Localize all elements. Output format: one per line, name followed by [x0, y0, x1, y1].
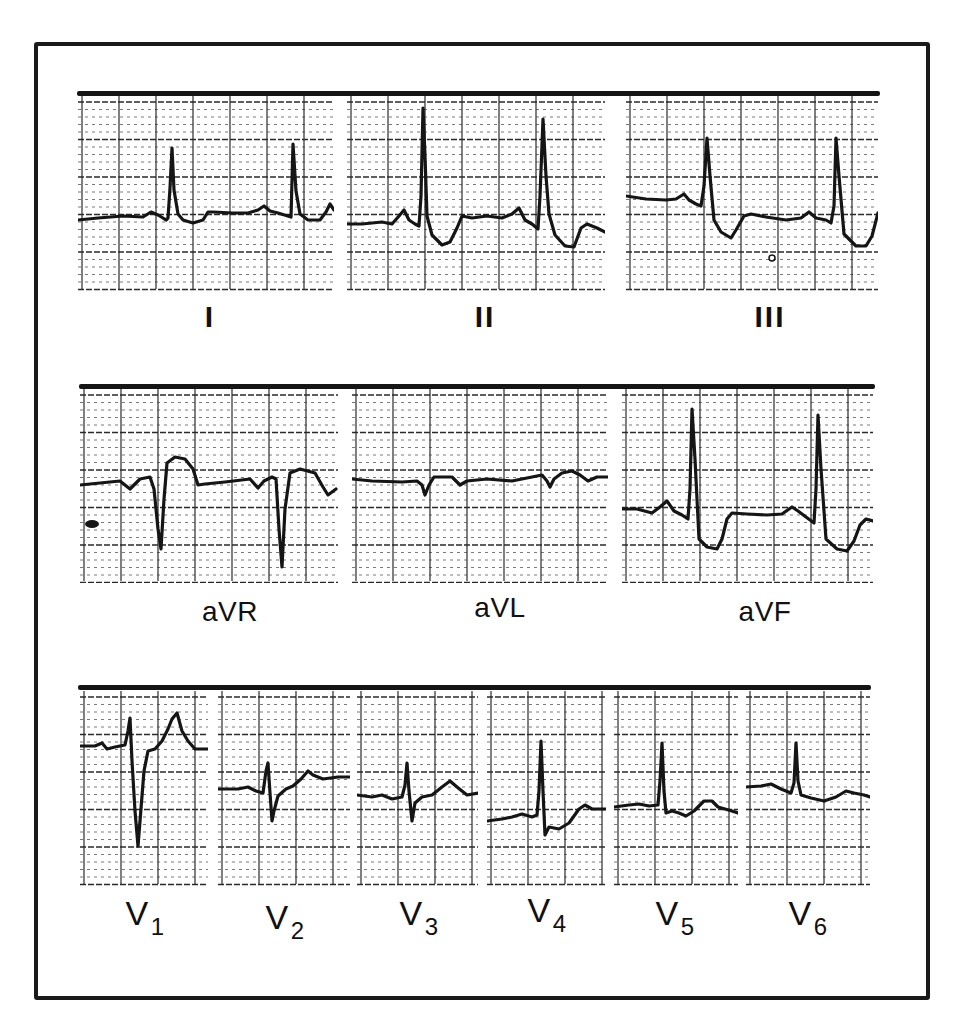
calibration-marker-icon — [85, 520, 99, 528]
row-3-top-bar — [78, 685, 871, 690]
ecg-trace-V3 — [357, 691, 478, 886]
lead-label-V6: V6 — [773, 896, 843, 939]
lead-label-aVF: aVF — [720, 598, 810, 626]
lead-label-aVR: aVR — [185, 598, 275, 626]
ecg-waveform-aVR — [80, 457, 336, 567]
ecg-trace-V6 — [746, 691, 870, 886]
lead-label-V4: V4 — [512, 893, 582, 936]
ecg-trace-V1 — [80, 691, 208, 886]
lead-label-V5: V5 — [640, 896, 710, 939]
ecg-trace-aVF — [622, 389, 873, 583]
ecg-panel-lead-V6 — [746, 691, 870, 886]
ecg-waveform-V1 — [80, 713, 208, 846]
artifact-circle-icon — [769, 255, 775, 261]
ecg-trace-aVL — [352, 389, 608, 583]
lead-label-V2: V2 — [250, 900, 320, 943]
lead-label-II: II — [455, 302, 515, 332]
ecg-panel-lead-V3 — [357, 691, 478, 886]
ecg-panel-lead-II — [347, 96, 605, 291]
ecg-panel-lead-V1 — [80, 691, 208, 886]
ecg-trace-V2 — [218, 691, 350, 886]
ecg-trace-II — [347, 96, 605, 291]
lead-label-V3: V3 — [384, 896, 454, 939]
ecg-panel-lead-aVR — [80, 389, 338, 583]
ecg-panel-lead-V2 — [218, 691, 350, 886]
lead-label-aVL: aVL — [455, 594, 545, 622]
lead-label-I: I — [180, 302, 240, 332]
ecg-trace-V4 — [487, 691, 606, 886]
ecg-waveform-aVL — [352, 471, 608, 495]
ecg-panel-lead-V5 — [614, 691, 738, 886]
ecg-panel-lead-aVL — [352, 389, 608, 583]
ecg-waveform-V4 — [487, 741, 606, 835]
ecg-panel-lead-aVF — [622, 389, 873, 583]
lead-label-V1: V1 — [110, 896, 180, 939]
lead-label-III: III — [735, 302, 805, 332]
ecg-panel-lead-I — [78, 96, 334, 291]
ecg-trace-I — [78, 96, 334, 291]
ecg-trace-aVR — [80, 389, 338, 583]
ecg-waveform-I — [78, 144, 334, 223]
ecg-panel-lead-V4 — [487, 691, 606, 886]
ecg-panel-lead-III — [626, 96, 878, 291]
ecg-trace-V5 — [614, 691, 738, 886]
ecg-trace-III — [626, 96, 878, 291]
